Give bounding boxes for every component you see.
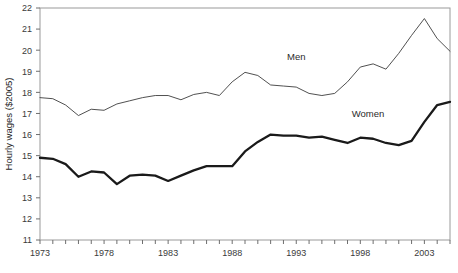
y-axis-ticks [36,8,40,240]
x-tick-label: 1978 [94,248,114,258]
y-tick-label: 14 [22,172,32,182]
y-tick-label: 18 [22,88,32,98]
y-axis-title-group: Hourly wages ($2005) [3,78,14,171]
y-axis-tick-labels: 111213141516171819202122 [22,3,32,245]
y-tick-label: 19 [22,67,32,77]
chart-canvas: 111213141516171819202122 197319781983198… [0,0,458,273]
x-tick-label: 1973 [30,248,50,258]
wage-trend-chart: 111213141516171819202122 197319781983198… [0,0,458,273]
y-tick-label: 13 [22,193,32,203]
y-tick-label: 17 [22,109,32,119]
x-axis-ticks [40,240,450,244]
x-tick-label: 1993 [286,248,306,258]
y-tick-label: 22 [22,3,32,13]
plot-frame [40,8,450,240]
y-tick-label: 16 [22,130,32,140]
series-label-women: Women [352,108,385,119]
x-axis-tick-labels: 1973197819831988199319982003 [30,248,434,258]
x-tick-label: 1988 [222,248,242,258]
y-tick-label: 12 [22,214,32,224]
y-tick-label: 20 [22,46,32,56]
y-tick-label: 15 [22,151,32,161]
x-tick-label: 1983 [158,248,178,258]
x-tick-label: 1998 [350,248,370,258]
y-tick-label: 11 [23,235,32,245]
y-axis-title: Hourly wages ($2005) [3,78,14,171]
y-tick-label: 21 [22,24,32,34]
series-label-men: Men [287,51,305,62]
plot-area-border [40,8,450,240]
x-tick-label: 2003 [414,248,434,258]
